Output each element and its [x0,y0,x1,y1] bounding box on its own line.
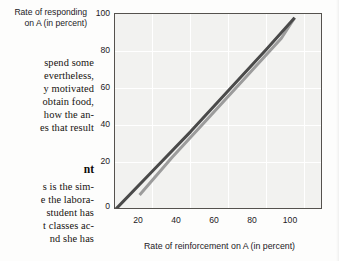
body-text-line: obtain food, [43,97,94,107]
x-tick-label: 20 [123,216,153,225]
x-axis-label: Rate of reinforcement on A (in percent) [100,241,339,251]
body-text-line: t classes ac- [43,221,94,231]
y-tick-label: 60 [84,83,110,92]
y-tick-label: 40 [84,120,110,129]
body-text-column: spend some evertheless, y motivated obta… [0,0,100,261]
plot-area [114,13,322,209]
x-tick-label: 60 [199,216,229,225]
matching-line [115,18,295,209]
x-tick-label: 40 [161,216,191,225]
y-axis-label-line-1: Rate of responding [0,7,87,18]
body-text-line: nd she has [50,234,94,244]
book-page: spend some evertheless, y motivated obta… [0,0,339,261]
section-heading: nt [84,164,94,176]
matching-law-chart: Rate of responding on A (in percent) 100… [100,0,339,261]
body-text-line: spend some [44,58,94,68]
body-text-line: s is the sim- [43,182,94,192]
body-text-line: how the an- [44,110,94,120]
x-tick-label: 100 [275,216,305,225]
y-axis-label: Rate of responding on A (in percent) [0,7,87,28]
x-tick-label: 80 [237,216,267,225]
y-axis-label-line-2: on A (in percent) [0,18,87,29]
y-tick-label: 0 [84,202,110,211]
body-text-line: evertheless, [44,71,94,81]
y-tick-label: 20 [84,157,110,166]
y-tick-label: 80 [84,46,110,55]
y-tick-label: 100 [84,9,110,18]
series-layer [115,14,322,209]
